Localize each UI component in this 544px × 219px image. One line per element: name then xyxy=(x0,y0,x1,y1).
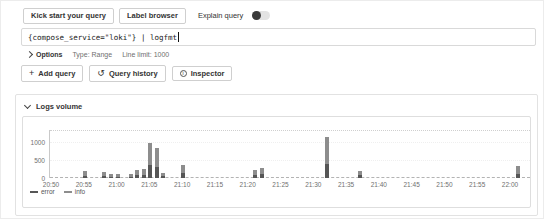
plot-top-gridline xyxy=(50,130,530,131)
legend-item-info[interactable]: info xyxy=(64,188,85,195)
query-type-value: Type: Range xyxy=(72,51,112,58)
zero-gridline xyxy=(50,177,530,178)
query-actions-row: + Add query ↺ Query history i Inspector xyxy=(21,65,232,82)
info-bar-segment xyxy=(325,137,329,163)
x-axis-tick-label: 21:00 xyxy=(108,181,124,188)
logs-volume-section: Logs volume 05001000 20:5020:5521:0021:0… xyxy=(15,94,538,216)
x-axis-tick-label: 21:30 xyxy=(305,181,321,188)
x-axis-tick-label: 22:00 xyxy=(502,181,518,188)
error-bar-segment xyxy=(358,175,362,178)
add-query-button[interactable]: + Add query xyxy=(21,65,83,82)
volume-bar[interactable] xyxy=(260,168,264,178)
chevron-right-icon xyxy=(26,51,33,58)
volume-bar[interactable] xyxy=(358,171,362,178)
toggle-knob-icon xyxy=(252,11,261,20)
volume-bar[interactable] xyxy=(142,169,146,178)
query-text: {compose_service="loki"} | logfmt xyxy=(28,33,177,42)
x-axis-tick-label: 21:15 xyxy=(207,181,223,188)
y-axis-tick-label: 1000 xyxy=(25,138,45,145)
error-bar-segment xyxy=(109,177,113,178)
x-axis-tick-label: 21:20 xyxy=(240,181,256,188)
volume-bar[interactable] xyxy=(253,170,257,178)
error-bar-segment xyxy=(155,167,159,178)
volume-bar[interactable] xyxy=(129,174,133,178)
error-bar-segment xyxy=(325,164,329,178)
grafana-explore-query-editor: Kick start your query Label browser Expl… xyxy=(0,0,544,219)
loki-query-input[interactable]: {compose_service="loki"} | logfmt xyxy=(21,28,536,46)
label-browser-button[interactable]: Label browser xyxy=(119,8,186,24)
error-bar-segment xyxy=(148,165,152,178)
x-axis-tick-label: 21:55 xyxy=(469,181,485,188)
error-bar-segment xyxy=(516,174,520,178)
error-bar-segment xyxy=(129,177,133,178)
error-bar-segment xyxy=(116,177,120,178)
query-history-label: Query history xyxy=(109,70,158,78)
add-query-label: Add query xyxy=(38,70,75,78)
plus-icon: + xyxy=(29,69,34,78)
legend-marker-icon xyxy=(30,191,38,193)
kick-start-query-button[interactable]: Kick start your query xyxy=(23,8,114,24)
error-bar-segment xyxy=(135,175,139,178)
options-expander[interactable]: Options xyxy=(27,51,62,58)
logs-volume-chart-panel: 05001000 20:5020:5521:0021:0521:1021:152… xyxy=(22,116,531,208)
line-limit-value: Line limit: 1000 xyxy=(122,51,169,58)
volume-bar[interactable] xyxy=(135,170,139,178)
query-history-button[interactable]: ↺ Query history xyxy=(89,65,165,82)
chevron-down-icon xyxy=(24,102,31,109)
logs-volume-title: Logs volume xyxy=(36,102,82,111)
volume-bar[interactable] xyxy=(83,171,87,178)
error-bar-segment xyxy=(181,173,185,178)
volume-bar[interactable] xyxy=(102,172,106,178)
query-toolbar: Kick start your query Label browser Expl… xyxy=(23,8,270,24)
volume-bar[interactable] xyxy=(155,148,159,178)
x-axis-tick-label: 21:05 xyxy=(141,181,157,188)
query-options-row: Options Type: Range Line limit: 1000 xyxy=(27,51,169,58)
options-label: Options xyxy=(36,51,62,58)
volume-bar[interactable] xyxy=(181,165,185,178)
legend-item-error[interactable]: error xyxy=(30,188,55,195)
info-bar-segment xyxy=(516,166,520,174)
logs-volume-plot-area[interactable] xyxy=(49,130,530,178)
volume-bar[interactable] xyxy=(325,137,329,178)
error-bar-segment xyxy=(253,175,257,178)
error-bar-segment xyxy=(161,176,165,178)
volume-bar[interactable] xyxy=(161,173,165,178)
x-axis-tick-label: 21:50 xyxy=(436,181,452,188)
x-axis-tick-label: 21:35 xyxy=(338,181,354,188)
x-axis-tick-label: 21:45 xyxy=(404,181,420,188)
legend-label: error xyxy=(41,188,55,195)
inspector-button[interactable]: i Inspector xyxy=(172,66,233,82)
legend-marker-icon xyxy=(64,191,72,193)
explain-query-label: Explain query xyxy=(198,11,243,20)
x-axis-tick-label: 21:10 xyxy=(174,181,190,188)
volume-bar[interactable] xyxy=(109,174,113,178)
text-cursor xyxy=(178,32,179,42)
volume-bar[interactable] xyxy=(116,174,120,178)
info-bar-segment xyxy=(148,143,152,165)
x-axis-tick-label: 20:50 xyxy=(43,181,59,188)
y-axis-tick-label: 500 xyxy=(25,156,45,163)
x-axis-tick-label: 21:40 xyxy=(371,181,387,188)
explain-query-toggle[interactable] xyxy=(252,11,270,20)
error-bar-segment xyxy=(102,176,106,178)
error-bar-segment xyxy=(142,175,146,178)
info-bar-segment xyxy=(181,165,185,173)
x-axis-tick-label: 20:55 xyxy=(76,181,92,188)
y-gridline xyxy=(50,142,530,143)
volume-bar[interactable] xyxy=(148,143,152,178)
error-bar-segment xyxy=(260,174,264,178)
info-bar-segment xyxy=(155,148,159,167)
legend-label: info xyxy=(75,188,85,195)
y-gridline xyxy=(50,160,530,161)
volume-bar[interactable] xyxy=(516,166,520,178)
history-icon: ↺ xyxy=(97,69,105,78)
chart-legend: errorinfo xyxy=(30,188,85,195)
error-bar-segment xyxy=(83,176,87,178)
inspector-label: Inspector xyxy=(191,70,225,78)
info-icon: i xyxy=(180,70,187,77)
x-axis-tick-label: 21:25 xyxy=(272,181,288,188)
logs-volume-collapse-header[interactable]: Logs volume xyxy=(16,95,537,111)
